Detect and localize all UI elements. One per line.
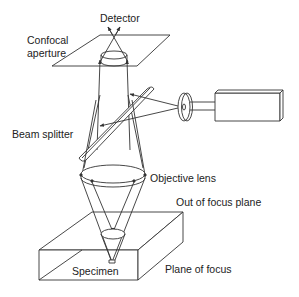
laser-box [215, 93, 280, 121]
plane-of-focus-label: Plane of focus [165, 263, 232, 275]
laser-source [178, 90, 283, 121]
beam-splitter-label: Beam splitter [12, 128, 73, 140]
laser-lens [178, 93, 190, 121]
objective-lens-label: Objective lens [150, 172, 216, 184]
detector-label: Detector [100, 12, 140, 24]
confocal-aperture-label-line1: Confocal [27, 34, 68, 46]
beam-splitter [79, 87, 154, 161]
confocal-aperture-label-line2: aperture [27, 47, 66, 59]
illumination-rays [82, 100, 145, 175]
focal-point [109, 260, 115, 263]
out-of-focus-plane-label: Out of focus plane [176, 196, 261, 208]
objective-lens [80, 165, 146, 187]
specimen-label: Specimen [72, 265, 119, 277]
confocal-aperture-plane [52, 35, 170, 66]
out-of-focus-spot [101, 229, 125, 239]
